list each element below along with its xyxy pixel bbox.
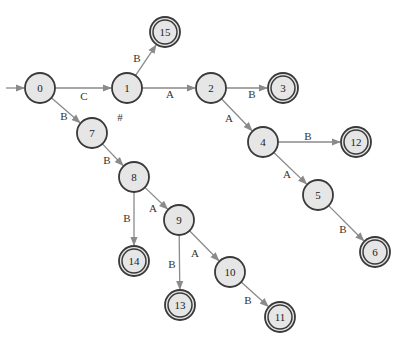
state-node-13: 13 (165, 290, 195, 320)
nodes-layer: 0123157841256914101311 (25, 17, 390, 332)
state-node-5: 5 (303, 180, 333, 210)
state-label: 2 (208, 82, 214, 94)
state-label: 3 (280, 82, 286, 94)
state-label: 6 (372, 246, 378, 258)
edge-label: B (60, 110, 67, 122)
state-node-4: 4 (248, 127, 278, 157)
state-label: 13 (175, 299, 187, 311)
edge-label: B (103, 154, 110, 166)
state-node-0: 0 (25, 73, 55, 103)
edge-label: A (283, 168, 291, 180)
state-label: 7 (89, 127, 95, 139)
state-node-3: 3 (268, 73, 298, 103)
edge-label: C (80, 90, 87, 102)
state-label: 15 (160, 26, 172, 38)
state-label: 9 (176, 214, 182, 226)
edge-label: A (149, 202, 157, 214)
state-node-6: 6 (360, 237, 390, 267)
edge-label: B (168, 258, 175, 270)
state-node-1: 1 (112, 73, 142, 103)
state-node-12: 12 (341, 127, 371, 157)
state-label: 1 (124, 82, 130, 94)
state-label: 8 (131, 171, 137, 183)
state-label: 5 (315, 189, 321, 201)
annotation-hash: # (117, 111, 123, 123)
state-node-9: 9 (164, 205, 194, 235)
state-label: 0 (37, 82, 43, 94)
edge-label: B (339, 223, 346, 235)
edge-label: B (244, 294, 251, 306)
state-node-11: 11 (265, 302, 295, 332)
state-label: 12 (351, 136, 362, 148)
state-node-14: 14 (119, 246, 149, 276)
edge-9-13 (179, 235, 180, 289)
edge-label: A (191, 247, 199, 259)
annotations-layer: # (117, 111, 123, 123)
edge-label: B (248, 88, 255, 100)
state-node-2: 2 (196, 73, 226, 103)
state-label: 14 (129, 255, 141, 267)
state-node-10: 10 (215, 257, 245, 287)
state-node-8: 8 (119, 162, 149, 192)
state-diagram: CBBABABABBBABAB 0123157841256914101311 # (0, 0, 405, 346)
edge-label: A (225, 112, 233, 124)
state-node-15: 15 (150, 17, 180, 47)
state-label: 11 (275, 311, 286, 323)
state-label: 10 (225, 266, 237, 278)
edge-label: B (123, 212, 130, 224)
state-node-7: 7 (77, 118, 107, 148)
state-label: 4 (260, 136, 266, 148)
edge-label: B (304, 130, 311, 142)
edge-label: B (133, 52, 140, 64)
edge-label: A (166, 88, 174, 100)
